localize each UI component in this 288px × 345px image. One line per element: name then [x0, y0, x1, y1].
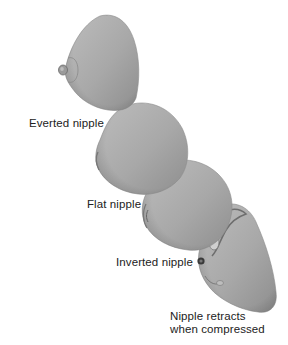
illustration-canvas: [0, 0, 288, 345]
breast-everted-illustration: [59, 15, 139, 110]
label-inverted-nipple: Inverted nipple: [116, 256, 193, 269]
label-retracts-line2: when compressed: [170, 323, 265, 336]
nipple-types-figure: Everted nipple Flat nipple Inverted nipp…: [0, 0, 288, 345]
breast-flat-illustration: [96, 103, 188, 194]
label-retracts-line1: Nipple retracts: [170, 310, 246, 323]
label-everted-nipple: Everted nipple: [29, 117, 104, 130]
label-flat-nipple: Flat nipple: [87, 198, 141, 211]
